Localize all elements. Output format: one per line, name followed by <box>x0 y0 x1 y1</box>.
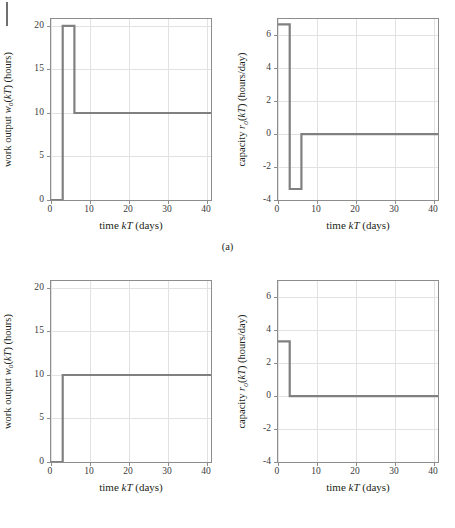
x-axis-tick-label: 10 <box>311 466 321 476</box>
y-axis-tick-label: 15 <box>34 63 44 73</box>
plot-inner <box>278 19 438 200</box>
y-axis-tick-label: 20 <box>34 282 44 292</box>
y-axis-tick-label: 0 <box>266 390 271 400</box>
x-axis-tick-label: 0 <box>48 204 53 214</box>
y-axis-tick-label: 10 <box>34 107 44 117</box>
x-axis-tick-label: 10 <box>84 204 94 214</box>
y-axis-tick <box>47 331 51 332</box>
y-axis-tick <box>47 26 51 27</box>
data-series-line <box>278 24 438 189</box>
y-axis-label: capacity ro(kT) (hours/day) <box>235 280 251 463</box>
y-axis-tick <box>274 363 278 364</box>
x-axis-tick-label: 30 <box>162 466 172 476</box>
y-axis-tick <box>274 297 278 298</box>
plot-area <box>50 18 212 201</box>
plot-area <box>50 280 212 463</box>
y-axis-tick-label: 6 <box>266 291 271 301</box>
x-axis-tick-label: 20 <box>350 466 360 476</box>
y-axis-tick-label: -4 <box>263 194 271 204</box>
series-layer <box>51 281 211 462</box>
y-axis-label: work output wo(kT) (hours) <box>0 280 16 463</box>
y-axis-tick-label: 6 <box>266 29 271 39</box>
chart-a-right: capacity ro(kT) (hours/day) time kT (day… <box>227 0 454 240</box>
data-series-line <box>51 26 211 200</box>
plot-area <box>277 18 439 201</box>
series-layer <box>51 19 211 200</box>
x-axis-tick-label: 40 <box>201 204 211 214</box>
y-axis-tick-label: -4 <box>263 456 271 466</box>
y-axis-tick <box>47 156 51 157</box>
data-series-line <box>278 341 438 396</box>
x-axis-tick-label: 20 <box>350 204 360 214</box>
y-axis-tick-label: 4 <box>266 62 271 72</box>
y-axis-tick <box>274 462 278 463</box>
y-axis-tick-label: 2 <box>266 95 271 105</box>
y-axis-tick <box>47 375 51 376</box>
y-axis-tick-label: 0 <box>39 456 44 466</box>
y-axis-tick <box>47 418 51 419</box>
y-axis-tick <box>274 330 278 331</box>
y-axis-tick <box>274 101 278 102</box>
figure-panel-b: work output wo(kT) (hours) time kT (days… <box>0 262 455 528</box>
x-axis-tick-label: 20 <box>123 466 133 476</box>
subfigure-caption: (a) <box>0 241 455 252</box>
y-axis-tick-label: 0 <box>266 128 271 138</box>
y-axis-tick <box>47 69 51 70</box>
x-axis-tick-label: 40 <box>428 204 438 214</box>
x-axis-tick-label: 30 <box>162 204 172 214</box>
y-axis-label: capacity ro(kT) (hours/day) <box>235 18 251 201</box>
y-axis-tick-label: -2 <box>263 161 271 171</box>
y-axis-tick <box>274 200 278 201</box>
y-axis-tick <box>274 35 278 36</box>
plot-inner <box>51 281 211 462</box>
y-axis-tick <box>274 68 278 69</box>
y-axis-tick <box>274 167 278 168</box>
y-axis-tick-label: 15 <box>34 325 44 335</box>
y-axis-tick-label: 10 <box>34 369 44 379</box>
y-axis-tick <box>274 396 278 397</box>
x-axis-tick-label: 40 <box>201 466 211 476</box>
x-axis-tick-label: 20 <box>123 204 133 214</box>
x-axis-tick-label: 30 <box>389 204 399 214</box>
y-axis-tick-label: 4 <box>266 324 271 334</box>
y-axis-tick-label: 0 <box>39 194 44 204</box>
y-axis-tick <box>47 462 51 463</box>
figure-panel-a: work output wo(kT) (hours) time kT (days… <box>0 0 455 262</box>
x-axis-label: time kT (days) <box>50 219 212 231</box>
x-axis-tick-label: 10 <box>84 466 94 476</box>
x-axis-tick-label: 0 <box>275 204 280 214</box>
y-axis-tick-label: 5 <box>39 412 44 422</box>
y-axis-tick <box>274 429 278 430</box>
y-axis-tick <box>47 113 51 114</box>
x-axis-label: time kT (days) <box>50 481 212 493</box>
x-axis-tick-label: 30 <box>389 466 399 476</box>
series-layer <box>278 19 438 200</box>
x-axis-tick-label: 10 <box>311 204 321 214</box>
x-axis-label: time kT (days) <box>277 481 439 493</box>
y-axis-tick <box>47 288 51 289</box>
y-axis-tick-label: 5 <box>39 150 44 160</box>
x-axis-tick-label: 0 <box>275 466 280 476</box>
x-axis-tick-label: 0 <box>48 466 53 476</box>
x-axis-tick-label: 40 <box>428 466 438 476</box>
series-layer <box>278 281 438 462</box>
y-axis-tick-label: -2 <box>263 423 271 433</box>
plot-inner <box>51 19 211 200</box>
chart-b-right: capacity ro(kT) (hours/day) time kT (day… <box>227 262 454 502</box>
y-axis-tick <box>47 200 51 201</box>
y-axis-tick <box>274 134 278 135</box>
data-series-line <box>51 375 211 462</box>
chart-a-left: work output wo(kT) (hours) time kT (days… <box>0 0 227 240</box>
plot-inner <box>278 281 438 462</box>
chart-b-left: work output wo(kT) (hours) time kT (days… <box>0 262 227 502</box>
y-axis-tick-label: 20 <box>34 20 44 30</box>
y-axis-tick-label: 2 <box>266 357 271 367</box>
x-axis-label: time kT (days) <box>277 219 439 231</box>
y-axis-label: work output wo(kT) (hours) <box>0 18 16 201</box>
plot-area <box>277 280 439 463</box>
